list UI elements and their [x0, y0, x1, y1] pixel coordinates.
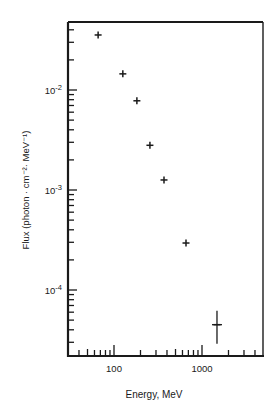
x-tick-label: 1000: [191, 363, 212, 374]
x-axis-tick-labels: 1001000: [106, 363, 213, 374]
data-point: [183, 240, 190, 247]
x-axis-label: Energy, MeV: [125, 389, 182, 400]
y-axis-tick-labels: 10-210-310-4: [45, 83, 62, 296]
flux-energy-chart: 1001000 10-210-310-4 Energy, MeV Flux (p…: [0, 0, 274, 419]
y-tick-label: 10-3: [45, 183, 62, 196]
y-axis-label: Flux (photon · cm⁻²· MeV⁻¹): [20, 131, 31, 250]
y-tick-label: 10-2: [45, 83, 62, 96]
data-points: [95, 31, 222, 343]
y-axis-ticks: [68, 30, 77, 342]
data-point: [119, 70, 126, 77]
data-point: [212, 311, 222, 344]
data-point: [95, 31, 102, 38]
y-tick-label: 10-4: [45, 283, 62, 296]
data-point: [146, 142, 153, 149]
plot-frame: [67, 22, 264, 357]
x-axis-ticks: [79, 345, 255, 356]
data-point: [133, 97, 140, 104]
x-tick-label: 100: [106, 363, 122, 374]
data-point: [161, 176, 168, 183]
